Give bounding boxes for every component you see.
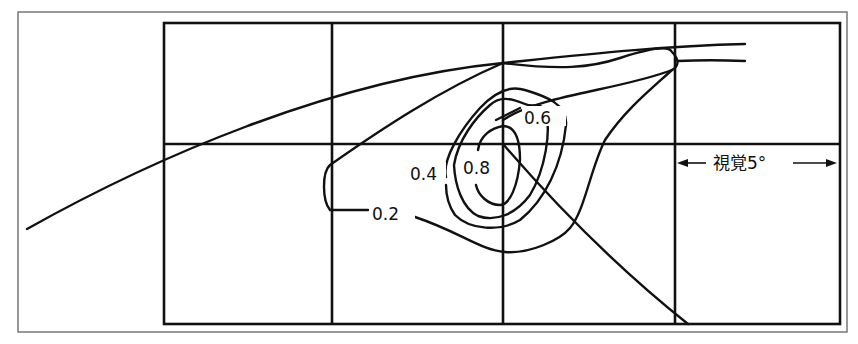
contour-diagram: 0.2 0.4 0.6 0.8 視覚5° [0, 0, 858, 344]
curves [27, 44, 745, 324]
arrow-right-icon [826, 159, 837, 167]
lower-arc-right [678, 60, 745, 61]
label-0.2: 0.2 [372, 204, 399, 224]
label-0.4: 0.4 [410, 164, 437, 184]
arrow-left-icon [677, 159, 688, 167]
diagonal-line [503, 144, 688, 324]
upper-arc [27, 44, 745, 229]
scale-indicator: 視覚5° [677, 153, 837, 173]
label-0.6: 0.6 [524, 108, 551, 128]
grid [164, 23, 840, 324]
scale-label: 視覚5° [713, 153, 766, 173]
label-0.8: 0.8 [463, 158, 490, 178]
